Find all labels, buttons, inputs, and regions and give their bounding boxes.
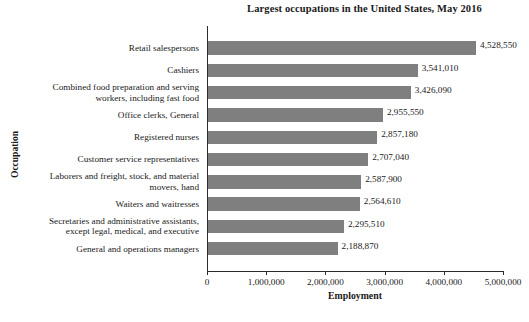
x-axis-tick-label: 1,000,000 [248,277,285,287]
category-label: General and operations managers [0,238,203,260]
category-label-text: Office clerks, General [118,110,203,120]
x-axis-tick [385,271,386,275]
bar-row: 2,188,870 [207,238,503,260]
category-label-text: Cashiers [167,65,203,75]
bar-row: 3,426,090 [207,82,503,104]
chart-figure: Largest occupations in the United States… [0,0,529,322]
bar-row: 3,541,010 [207,59,503,81]
bar[interactable] [208,108,383,122]
category-label-text: Customer service representatives [78,154,203,164]
x-axis-tick [325,271,326,275]
bar-row: 2,955,550 [207,104,503,126]
bar-value-label: 3,541,010 [422,63,459,73]
category-label: Cashiers [0,59,203,81]
bar-row: 2,707,040 [207,149,503,171]
bar-value-label: 2,564,610 [364,196,401,206]
bar[interactable] [208,197,360,211]
bar[interactable] [208,86,411,100]
y-axis-category-labels: Retail salespersonsCashiersCombined food… [0,26,203,271]
bar-row: 2,295,510 [207,215,503,237]
bar[interactable] [208,64,418,78]
x-axis-tick-label: 3,000,000 [366,277,403,287]
bar-value-label: 2,707,040 [372,152,409,162]
category-label: Retail salespersons [0,37,203,59]
bar-row: 2,857,180 [207,126,503,148]
x-axis-line [207,271,504,272]
category-label: Registered nurses [0,126,203,148]
figure-caption [8,308,528,322]
x-axis-tick [207,271,208,275]
category-label-text: Retail salespersons [129,43,203,53]
bar-value-label: 3,426,090 [415,85,452,95]
bar-row: 4,528,550 [207,37,503,59]
category-label-text: Laborers and freight, stock, and materia… [50,171,203,192]
bar-value-label: 4,528,550 [480,40,517,50]
category-label-text: Registered nurses [134,132,203,142]
bar-value-label: 2,955,550 [387,107,424,117]
bar[interactable] [208,41,476,55]
bar-value-label: 2,188,870 [342,241,379,251]
bar[interactable] [208,153,368,167]
category-label-text: Combined food preparation and servingwor… [53,82,203,103]
category-label: Secretaries and administrative assistant… [0,215,203,237]
bar-value-label: 2,857,180 [381,129,418,139]
x-axis-tick [266,271,267,275]
bar[interactable] [208,220,344,234]
category-label: Laborers and freight, stock, and materia… [0,171,203,193]
bar[interactable] [208,131,377,145]
category-label-text: Secretaries and administrative assistant… [49,216,203,237]
bar-series: 4,528,5503,541,0103,426,0902,955,5502,85… [207,26,503,271]
category-label-text: Waiters and waitresses [116,199,203,209]
category-label: Office clerks, General [0,104,203,126]
bar-row: 2,564,610 [207,193,503,215]
bar-value-label: 2,295,510 [348,219,385,229]
x-axis-tick-label: 0 [205,277,210,287]
bar[interactable] [208,242,338,256]
x-axis-tick-label: 4,000,000 [425,277,462,287]
x-axis-tick-label: 5,000,000 [485,277,522,287]
plot-area: 4,528,5503,541,0103,426,0902,955,5502,85… [207,26,503,271]
bar-row: 2,587,900 [207,171,503,193]
x-axis-title: Employment [207,290,503,301]
category-label: Waiters and waitresses [0,193,203,215]
category-label: Customer service representatives [0,149,203,171]
category-label-text: General and operations managers [76,244,203,254]
bar[interactable] [208,175,361,189]
bar-value-label: 2,587,900 [365,174,402,184]
x-axis-tick-label: 2,000,000 [307,277,344,287]
category-label: Combined food preparation and servingwor… [0,82,203,104]
x-axis-tick [444,271,445,275]
chart-title: Largest occupations in the United States… [200,3,529,14]
x-axis-tick [503,271,504,275]
